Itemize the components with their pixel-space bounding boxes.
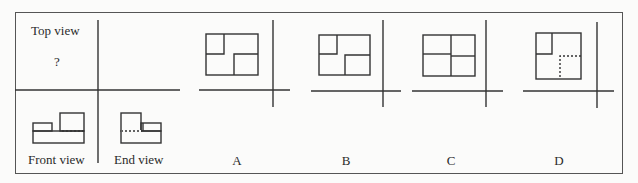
orthographic-projection-diagram [0,0,638,183]
question-axes [15,20,180,163]
unknown-top-view-marker: ? [54,55,60,69]
option-c-label[interactable]: C [447,154,456,168]
option-b-label[interactable]: B [342,154,351,168]
end-view-drawing [121,113,161,143]
option-d-label[interactable]: D [554,154,563,168]
front-view-label: Front view [28,153,85,167]
end-view-label: End view [114,153,163,167]
option-b-drawing[interactable] [311,20,401,107]
front-view-drawing [33,113,84,143]
option-c-drawing[interactable] [412,20,503,107]
option-d-drawing[interactable] [523,22,614,108]
top-view-label: Top view [31,24,80,38]
option-a-label[interactable]: A [232,154,241,168]
option-a-drawing[interactable] [199,20,290,107]
